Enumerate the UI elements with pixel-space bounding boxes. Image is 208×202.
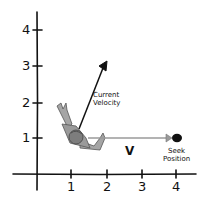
y-axis [33, 12, 42, 190]
x-tick-label-3: 3 [138, 180, 146, 193]
desired-velocity-label: V [125, 145, 134, 157]
y-tick-label-1: 1 [22, 131, 30, 144]
y-tick-label-2: 2 [22, 96, 30, 109]
current-velocity-label: Current Velocity [93, 91, 120, 107]
x-tick-label-2: 2 [103, 180, 111, 193]
seek-behavior-diagram: 4 3 2 1 1 2 3 4 Current Velocity V Seek … [0, 0, 208, 202]
seek-position-label-line2: Position [163, 155, 190, 163]
x-tick-label-4: 4 [172, 180, 180, 193]
x-tick-label-1: 1 [67, 180, 75, 193]
agent-figure-icon [57, 103, 105, 150]
seek-position-label: Seek Position [163, 147, 190, 163]
current-velocity-label-line2: Velocity [93, 99, 120, 107]
seek-position-label-line1: Seek [163, 147, 190, 155]
seek-target-dot [172, 134, 182, 142]
x-axis [13, 170, 196, 178]
current-velocity-label-line1: Current [93, 91, 120, 99]
y-tick-label-4: 4 [22, 23, 30, 36]
y-tick-label-3: 3 [22, 59, 30, 72]
